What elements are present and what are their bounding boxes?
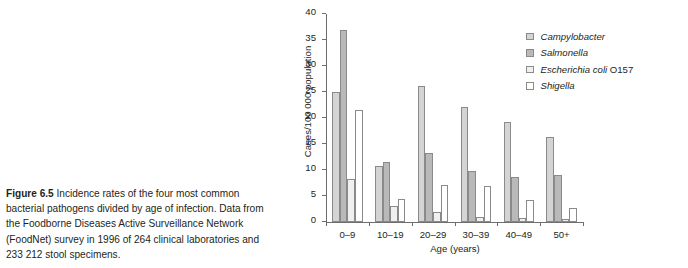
bar xyxy=(511,177,519,222)
legend-item: Campylobacter xyxy=(526,28,688,45)
x-tick xyxy=(497,222,498,226)
bar xyxy=(461,107,469,222)
bar xyxy=(347,179,355,222)
plot-area: 0510152025303540 0–910–1920–2930–3940–49… xyxy=(326,14,522,222)
y-axis-line xyxy=(326,14,327,222)
y-tick-label: 30 xyxy=(305,58,316,69)
x-axis-title: Age (years) xyxy=(326,243,584,254)
y-tick: 35 xyxy=(322,39,326,40)
legend-item: Salmonella xyxy=(526,45,688,62)
y-axis-title: Cases/100 000 population xyxy=(302,37,313,167)
bar xyxy=(569,208,577,222)
legend-label: Escherichia coli O157 xyxy=(541,64,634,75)
y-tick: 40 xyxy=(322,13,326,14)
chart-legend: CampylobacterSalmonellaEscherichia coli … xyxy=(526,28,688,94)
bar xyxy=(519,218,527,222)
x-tick-label: 20–29 xyxy=(420,229,447,240)
y-tick-label: 35 xyxy=(305,32,316,43)
bar xyxy=(562,219,570,222)
bar xyxy=(484,186,492,222)
y-tick: 15 xyxy=(322,143,326,144)
legend-label: Salmonella xyxy=(541,47,588,58)
bar xyxy=(546,137,554,222)
x-tick-label: 10–19 xyxy=(377,229,404,240)
x-tick xyxy=(540,222,541,226)
x-tick xyxy=(326,222,327,226)
bar xyxy=(468,171,476,222)
x-tick-label: 0–9 xyxy=(339,229,355,240)
y-tick-label: 25 xyxy=(305,84,316,95)
y-tick: 30 xyxy=(322,65,326,66)
bar xyxy=(554,175,562,222)
bar xyxy=(476,217,484,222)
x-tick xyxy=(369,222,370,226)
bar xyxy=(383,162,391,222)
bar xyxy=(425,153,433,222)
legend-label: Campylobacter xyxy=(541,31,606,42)
y-tick: 20 xyxy=(322,117,326,118)
x-tick-label: 30–39 xyxy=(463,229,490,240)
bar xyxy=(375,166,383,222)
figure-number: Figure 6.5 xyxy=(6,188,54,199)
y-tick-label: 5 xyxy=(311,188,316,199)
legend-swatch-icon xyxy=(526,49,534,57)
y-tick: 25 xyxy=(322,91,326,92)
x-tick xyxy=(583,222,584,226)
legend-item: Escherichia coli O157 xyxy=(526,61,688,78)
x-tick-label: 40–49 xyxy=(505,229,532,240)
bar xyxy=(504,122,512,222)
bar xyxy=(441,185,449,222)
legend-label: Shigella xyxy=(541,80,575,91)
bar-chart-figure: Cases/100 000 population 051015202530354… xyxy=(286,0,688,268)
legend-swatch-icon xyxy=(526,66,534,74)
bar xyxy=(332,92,340,222)
bar xyxy=(398,199,406,222)
bar xyxy=(355,110,363,222)
y-tick-label: 40 xyxy=(305,6,316,17)
bar xyxy=(390,206,398,222)
x-tick xyxy=(455,222,456,226)
bar xyxy=(526,200,534,222)
legend-item: Shigella xyxy=(526,78,688,95)
y-tick: 5 xyxy=(322,195,326,196)
x-tick-label: 50+ xyxy=(553,229,569,240)
legend-swatch-icon xyxy=(526,82,534,90)
y-tick-label: 15 xyxy=(305,136,316,147)
bar xyxy=(340,30,348,222)
legend-swatch-icon xyxy=(526,33,534,41)
y-tick-label: 20 xyxy=(305,110,316,121)
x-tick xyxy=(412,222,413,226)
figure-caption: Figure 6.5 Incidence rates of the four m… xyxy=(6,186,278,262)
y-tick: 10 xyxy=(322,169,326,170)
y-tick-label: 10 xyxy=(305,162,316,173)
bar xyxy=(418,86,426,222)
bar xyxy=(433,212,441,222)
y-tick-label: 0 xyxy=(311,214,316,225)
